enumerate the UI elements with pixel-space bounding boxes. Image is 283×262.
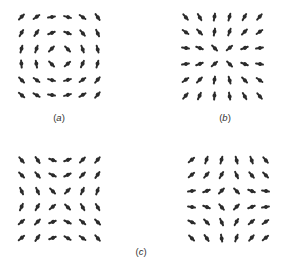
director-rod-icon — [201, 204, 210, 209]
label-c: (c) — [135, 246, 146, 257]
director-rod-icon — [19, 44, 23, 53]
director-rod-icon — [17, 13, 25, 21]
director-rod-icon — [17, 234, 25, 241]
director-rod-icon — [78, 29, 85, 37]
director-rod-icon — [62, 157, 71, 162]
director-rod-icon — [94, 186, 99, 195]
director-rod-icon — [18, 186, 24, 195]
director-rod-icon — [240, 28, 248, 36]
director-rod-icon — [203, 155, 208, 164]
director-rod-icon — [33, 218, 41, 226]
director-rod-icon — [218, 171, 224, 180]
director-rod-icon — [78, 14, 87, 21]
director-rod-icon — [34, 203, 40, 212]
director-rod-icon — [260, 205, 269, 209]
director-rod-icon — [247, 234, 254, 242]
director-rod-icon — [255, 13, 262, 21]
director-rod-icon — [34, 186, 40, 195]
director-rod-icon — [180, 46, 189, 50]
director-rod-icon — [246, 188, 255, 193]
director-rod-icon — [255, 92, 262, 100]
director-rod-icon — [226, 27, 231, 36]
director-rod-icon — [201, 188, 210, 193]
director-rod-icon — [48, 187, 56, 195]
label-a-close-paren: ) — [62, 112, 65, 123]
director-rod-icon — [255, 77, 264, 84]
director-rod-icon — [62, 30, 71, 35]
director-rod-icon — [47, 60, 55, 68]
director-rod-icon — [46, 78, 55, 82]
director-rod-icon — [218, 217, 224, 226]
director-rod-icon — [217, 187, 225, 195]
director-rod-icon — [255, 29, 264, 36]
director-rod-icon — [227, 12, 231, 21]
director-rod-icon — [227, 75, 231, 84]
director-rod-icon — [33, 44, 38, 53]
director-rod-icon — [34, 59, 38, 68]
director-rod-icon — [219, 233, 223, 242]
director-rod-icon — [17, 91, 25, 98]
director-rod-icon — [233, 218, 239, 227]
director-rod-icon — [18, 29, 24, 38]
director-rod-icon — [186, 205, 195, 209]
director-rod-icon — [46, 15, 55, 19]
director-rod-icon — [62, 172, 71, 178]
director-rod-icon — [181, 77, 190, 84]
director-rod-icon — [47, 172, 56, 178]
director-rod-icon — [187, 234, 195, 242]
director-rod-icon — [241, 92, 247, 101]
director-rod-icon — [195, 28, 203, 36]
director-rod-icon — [32, 92, 41, 98]
director-rod-icon — [210, 44, 218, 52]
director-rod-icon — [63, 235, 72, 241]
director-rod-icon — [93, 76, 100, 84]
director-rod-icon — [232, 203, 240, 211]
director-rod-icon — [94, 171, 101, 180]
director-rod-icon — [261, 156, 268, 164]
director-rod-icon — [34, 234, 41, 243]
director-rod-icon — [95, 44, 99, 53]
director-rod-icon — [94, 13, 101, 22]
director-rod-icon — [17, 171, 25, 179]
director-rod-icon — [180, 62, 189, 66]
director-rod-icon — [33, 29, 40, 38]
director-rod-icon — [93, 91, 100, 99]
director-rod-icon — [246, 204, 255, 209]
director-rod-icon — [219, 155, 223, 164]
director-rod-icon — [248, 155, 253, 164]
director-rod-icon — [63, 203, 71, 211]
director-rod-icon — [227, 91, 231, 100]
director-rod-icon — [46, 93, 55, 97]
director-rod-icon — [225, 44, 233, 51]
director-rod-icon — [63, 187, 71, 195]
director-rod-icon — [78, 171, 86, 179]
director-rod-icon — [20, 59, 23, 68]
director-rod-icon — [217, 203, 224, 211]
director-rod-icon — [62, 78, 71, 82]
director-rod-icon — [240, 76, 248, 84]
director-rod-icon — [233, 233, 238, 242]
director-rod-icon — [95, 59, 99, 68]
director-rod-icon — [93, 218, 101, 226]
director-rod-icon — [79, 44, 84, 53]
director-rod-icon — [254, 62, 263, 66]
director-rod-icon — [202, 218, 210, 226]
label-b-close-paren: ) — [228, 112, 231, 123]
label-b: (b) — [219, 112, 231, 123]
director-rod-icon — [247, 171, 254, 179]
director-rod-icon — [194, 61, 203, 66]
director-rod-icon — [254, 46, 263, 50]
director-rod-icon — [93, 234, 100, 242]
director-rod-icon — [78, 218, 86, 225]
director-rod-icon — [196, 13, 202, 22]
director-rod-icon — [195, 76, 203, 84]
director-rod-icon — [203, 234, 210, 243]
director-rod-icon — [78, 77, 87, 84]
director-rod-icon — [78, 235, 87, 242]
director-rod-icon — [234, 155, 238, 164]
director-rod-icon — [47, 45, 55, 53]
director-rod-icon — [239, 45, 248, 50]
director-rod-icon — [187, 156, 195, 163]
director-rod-icon — [17, 218, 25, 225]
director-rod-icon — [63, 45, 71, 53]
